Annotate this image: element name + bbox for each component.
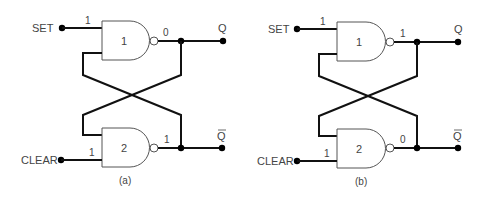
circuit-a: SET 1 1 0 Q 2 1 Q CLEAR 1 (a) bbox=[21, 15, 227, 186]
circuit-b: SET 1 1 1 Q 2 0 Q CLEAR 1 (b) bbox=[257, 16, 463, 187]
qbar-terminal bbox=[219, 145, 225, 151]
set-label: SET bbox=[268, 23, 290, 35]
qbar-label: Q bbox=[217, 130, 226, 142]
gate-1-output-value: 1 bbox=[400, 28, 406, 39]
caption-b: (b) bbox=[355, 176, 367, 187]
set-value: 1 bbox=[85, 15, 91, 26]
q-label: Q bbox=[454, 23, 463, 35]
gate-1-inverter-bubble bbox=[150, 37, 158, 45]
gate-1-label: 1 bbox=[121, 35, 127, 47]
gate-2-label: 2 bbox=[121, 142, 127, 154]
gate-2-output-value: 1 bbox=[164, 134, 170, 145]
set-label: SET bbox=[32, 22, 54, 34]
clear-label: CLEAR bbox=[257, 155, 294, 167]
clear-label: CLEAR bbox=[21, 154, 58, 166]
gate-2-label: 2 bbox=[356, 143, 362, 155]
gate-2-inverter-bubble bbox=[386, 144, 394, 152]
gate-2-output-value: 0 bbox=[400, 134, 406, 145]
clear-value: 1 bbox=[324, 148, 330, 159]
qbar-label: Q bbox=[453, 130, 462, 142]
qbar-junction bbox=[178, 145, 184, 151]
clear-value: 1 bbox=[89, 147, 95, 158]
qbar-terminal bbox=[455, 145, 461, 151]
qbar-junction bbox=[414, 145, 420, 151]
q-label: Q bbox=[218, 22, 227, 34]
caption-a: (a) bbox=[119, 175, 131, 186]
gate-1-label: 1 bbox=[356, 36, 362, 48]
gate-2-inverter-bubble bbox=[150, 144, 158, 152]
set-value: 1 bbox=[320, 16, 326, 27]
gate-1-output-value: 0 bbox=[163, 27, 169, 38]
q-terminal bbox=[455, 39, 461, 45]
q-terminal bbox=[220, 38, 226, 44]
gate-1-inverter-bubble bbox=[386, 38, 394, 46]
